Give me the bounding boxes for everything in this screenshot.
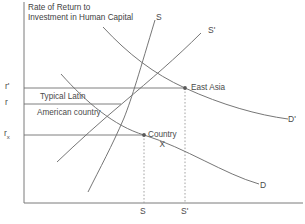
x-tick-label-s-prime: S'	[181, 206, 188, 216]
curve-label-d: D	[260, 180, 266, 190]
annotation-american-country: American country	[37, 108, 101, 118]
curve-label-d-prime: D'	[288, 114, 296, 124]
economics-supply-demand-figure: Rate of Return to Investment in Human Ca…	[0, 0, 305, 224]
y-tick-label-r-prime: r'	[5, 81, 9, 91]
demand-curve-d-prime	[103, 27, 288, 119]
y-tick-label-r-x: rx	[4, 128, 10, 141]
y-tick-label-r-x-subscript: x	[7, 134, 10, 140]
annotation-east-asia: East Asia	[191, 83, 225, 93]
annotation-country-x: CountryX	[148, 130, 177, 149]
annotation-country-x-line2: X	[148, 140, 177, 150]
curve-label-s-prime: S'	[208, 25, 215, 35]
annotation-country-x-line1: Country	[148, 130, 177, 139]
equilibrium-point-country-x	[142, 133, 146, 137]
x-tick-label-s: S	[140, 206, 146, 216]
y-tick-label-r: r	[5, 97, 8, 107]
equilibrium-point-east-asia	[183, 86, 187, 90]
curve-label-s: S	[156, 12, 162, 22]
y-axis-title: Rate of Return to Investment in Human Ca…	[28, 3, 133, 22]
annotation-typical-latin: Typical Latin	[40, 92, 86, 102]
demand-curve-d	[61, 74, 259, 184]
